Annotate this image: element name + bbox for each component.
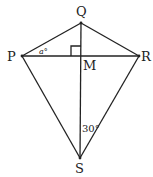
label-P: P — [7, 49, 16, 64]
segment-PS — [22, 56, 80, 158]
right-angle-marker — [71, 46, 81, 56]
label-M: M — [83, 58, 96, 73]
label-R: R — [141, 49, 152, 64]
segment-QR — [81, 23, 139, 56]
angle-label-30: 30° — [82, 123, 100, 134]
label-S: S — [75, 161, 84, 176]
angle-label-a: a° — [39, 47, 48, 56]
diagonal-QS — [80, 23, 81, 158]
label-Q: Q — [76, 4, 87, 19]
segment-PQ — [22, 23, 81, 56]
kite-diagram: Q P R M S a° 30° — [0, 0, 153, 177]
